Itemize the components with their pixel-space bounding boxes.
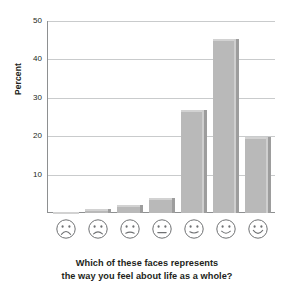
y-tick-label-40: 40	[0, 54, 42, 63]
bar-right-edge	[108, 209, 111, 213]
chart-caption: Which of these faces represents the way …	[0, 257, 294, 282]
bar-neutral-face	[149, 198, 175, 213]
face-5-smile-slight-icon	[183, 218, 205, 240]
bar-slightly-happy-face	[181, 110, 207, 213]
chart-figure: Percent 50 40 30 20 10	[0, 0, 294, 287]
y-axis-title: Percent	[13, 35, 23, 95]
bar-right-edge	[236, 39, 239, 213]
bar-series	[47, 21, 274, 213]
bar-right-edge	[140, 205, 143, 213]
face-3-frown-slight-icon	[119, 218, 141, 240]
bar-right-edge	[172, 198, 175, 213]
y-tick-label-50: 50	[0, 16, 42, 25]
bar-unhappy-face	[85, 209, 111, 213]
x-axis-face-labels	[47, 218, 274, 242]
bar-top-highlight	[53, 212, 79, 214]
bar-right-edge	[268, 137, 271, 213]
y-tick-label-10: 10	[0, 170, 42, 179]
y-tick-label-20: 20	[0, 131, 42, 140]
bar-slightly-unhappy-face	[117, 205, 143, 213]
face-1-frown-strong-icon	[55, 218, 77, 240]
bar-very-happy-face	[245, 137, 271, 213]
face-7-smile-strong-icon	[247, 218, 269, 240]
y-tick-label-30: 30	[0, 93, 42, 102]
bar-happy-face	[213, 39, 239, 213]
caption-line-1: Which of these faces represents	[0, 257, 294, 270]
bar-right-highlight	[234, 39, 236, 213]
face-2-frown-icon	[87, 218, 109, 240]
bar-right-highlight	[266, 137, 268, 213]
face-6-smile-icon	[215, 218, 237, 240]
bar-right-highlight	[202, 110, 204, 213]
bar-very-unhappy-face	[53, 212, 79, 213]
face-4-neutral-icon	[151, 218, 173, 240]
caption-line-2: the way you feel about life as a whole?	[0, 270, 294, 283]
bar-right-edge	[204, 110, 207, 213]
